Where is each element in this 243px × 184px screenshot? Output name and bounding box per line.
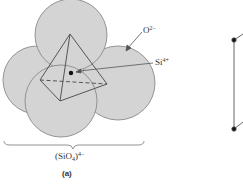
figure-caption: (a) <box>62 170 72 178</box>
oxygen-ion-label: O2− <box>143 26 156 35</box>
adjacent-figure-fragment <box>232 34 243 131</box>
sio4-tetrahedron-diagram <box>0 0 243 184</box>
silicon-ion-label: Si4+ <box>155 58 169 67</box>
silicon-ion-dot <box>69 71 73 75</box>
oxygen-spheres <box>3 0 155 137</box>
formula-brace <box>4 141 144 149</box>
silicate-formula-label: (SiO4)4− <box>55 152 84 161</box>
